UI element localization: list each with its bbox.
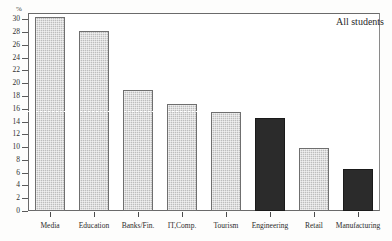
x-axis-tick-mark xyxy=(358,212,359,217)
x-axis-label-tourism: Tourism xyxy=(214,221,239,230)
bars-layer xyxy=(28,13,380,211)
y-axis-tick-label: 0 xyxy=(16,206,20,215)
x-axis-tick-mark xyxy=(226,212,227,217)
y-axis-tick-label: 30 xyxy=(13,14,21,23)
bar-education xyxy=(79,31,110,211)
y-axis-unit-label: % xyxy=(16,5,22,13)
bar-retail xyxy=(299,148,330,211)
y-axis-tick-label: 16 xyxy=(13,104,21,113)
x-axis-label-media: Media xyxy=(40,221,59,230)
y-axis-tick-label: 4 xyxy=(16,180,20,189)
y-axis-tick-label: 28 xyxy=(13,27,21,36)
y-axis-tick-label: 12 xyxy=(13,129,21,138)
bar-manufacturing xyxy=(343,169,374,211)
bar-tourism xyxy=(211,112,242,211)
bar-media xyxy=(35,17,66,211)
series-annotation-label: All students xyxy=(336,16,384,27)
x-axis-label-engineering: Engineering xyxy=(252,221,289,230)
x-axis-tick-mark xyxy=(314,212,315,217)
x-axis-tick-mark xyxy=(94,212,95,217)
bar-it-comp xyxy=(167,104,198,211)
x-axis-tick-mark xyxy=(50,212,51,217)
y-axis-tick-label: 26 xyxy=(13,40,21,49)
y-axis-tick-label: 2 xyxy=(16,193,20,202)
y-axis-tick-label: 22 xyxy=(13,65,21,74)
x-axis-label-manufacturing: Manufacturing xyxy=(336,221,381,230)
y-axis-tick-label: 10 xyxy=(13,142,21,151)
x-axis-label-it-comp: IT,Comp. xyxy=(168,221,197,230)
y-axis-tick-label: 24 xyxy=(13,53,21,62)
y-axis-tick-label: 14 xyxy=(13,117,21,126)
x-axis-tick-mark xyxy=(138,212,139,217)
x-axis-tick-mark xyxy=(182,212,183,217)
bar-banks-fin xyxy=(123,90,154,211)
x-axis-label-education: Education xyxy=(79,221,109,230)
y-axis-tick-label: 18 xyxy=(13,91,21,100)
bar-chart: % 024681012141618202224262830 MediaEduca… xyxy=(0,0,392,241)
x-axis-label-retail: Retail xyxy=(305,221,323,230)
x-axis-label-banks-fin: Banks/Fin. xyxy=(122,221,155,230)
x-axis-tick-mark xyxy=(270,212,271,217)
bar-engineering xyxy=(255,118,286,211)
y-axis-tick-label: 6 xyxy=(16,168,20,177)
y-axis-tick-mark xyxy=(22,211,28,212)
y-axis-tick-label: 8 xyxy=(16,155,20,164)
y-axis-tick-label: 20 xyxy=(13,78,21,87)
reference-line xyxy=(28,111,380,112)
